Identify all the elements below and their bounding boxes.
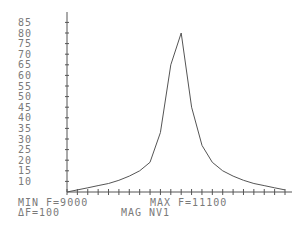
y-tick-label: 45 xyxy=(18,102,32,113)
delta-frequency-label: ΔF=100 xyxy=(18,207,60,218)
y-tick-label: 20 xyxy=(18,155,32,166)
y-tick-label: 25 xyxy=(18,144,32,155)
magnitude-curve xyxy=(67,33,285,192)
chart: 10152025303540455055606570758085 MIN F=9… xyxy=(0,0,299,227)
y-tick-label: 70 xyxy=(18,49,32,60)
y-tick-label: 75 xyxy=(18,38,32,49)
y-tick-label: 55 xyxy=(18,81,32,92)
y-axis-labels: 10152025303540455055606570758085 xyxy=(18,17,32,187)
y-tick-label: 10 xyxy=(18,176,32,187)
y-tick-label: 50 xyxy=(18,91,32,102)
y-tick-label: 15 xyxy=(18,165,32,176)
y-tick-label: 30 xyxy=(18,134,32,145)
y-tick-label: 35 xyxy=(18,123,32,134)
y-tick-label: 85 xyxy=(18,17,32,28)
y-tick-label: 65 xyxy=(18,59,32,70)
y-tick-label: 80 xyxy=(18,28,32,39)
y-tick-label: 40 xyxy=(18,112,32,123)
magnitude-label: MAG NV1 xyxy=(121,207,170,218)
axes xyxy=(65,12,292,195)
y-tick-label: 60 xyxy=(18,70,32,81)
